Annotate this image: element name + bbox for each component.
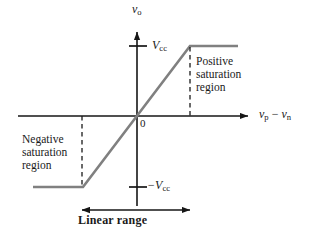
- y-axis-label: vo: [132, 3, 142, 18]
- negative-saturation-line-2: saturation: [22, 146, 67, 159]
- x-axis-label-subscript-n: n: [287, 112, 291, 122]
- negative-saturation-line-1: Negative: [22, 133, 67, 146]
- negative-vcc-symbol: −V: [147, 178, 162, 192]
- positive-vcc-subscript: cc: [159, 43, 167, 53]
- positive-saturation-line-3: region: [196, 81, 241, 94]
- op-amp-transfer-characteristic-figure: vo vp − vn Vcc −Vcc 0 Positive saturatio…: [0, 0, 314, 242]
- negative-vcc-tick-label: −Vcc: [147, 179, 170, 194]
- y-axis-label-subscript: o: [137, 7, 141, 17]
- positive-saturation-region-label: Positive saturation region: [196, 55, 241, 94]
- negative-saturation-region-label: Negative saturation region: [22, 133, 67, 172]
- positive-saturation-line-2: saturation: [196, 68, 241, 81]
- negative-saturation-line-3: region: [22, 159, 67, 172]
- positive-vcc-tick-label: Vcc: [152, 39, 167, 54]
- negative-vcc-subscript: cc: [162, 183, 170, 193]
- origin-label: 0: [140, 117, 146, 129]
- x-axis-label-minus: −: [269, 107, 282, 121]
- x-axis-label: vp − vn: [259, 108, 291, 123]
- linear-range-label: Linear range: [78, 214, 147, 227]
- positive-saturation-line-1: Positive: [196, 55, 241, 68]
